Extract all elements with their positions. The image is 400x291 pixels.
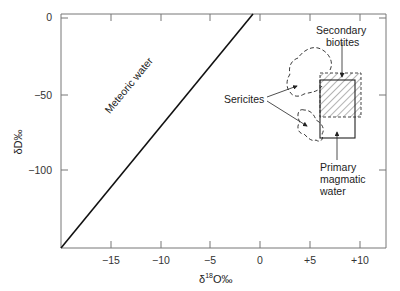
y-tick-label: −50 xyxy=(12,89,52,101)
sericites-label: Sericites xyxy=(224,93,264,105)
x-tick-label: 0 xyxy=(257,254,263,266)
x-tick-label: +10 xyxy=(351,254,369,266)
x-tick-label: +5 xyxy=(304,254,316,266)
x-tick-label: −10 xyxy=(152,254,170,266)
secondary-biotites-label: biotites xyxy=(326,36,359,48)
x-ticks xyxy=(111,14,360,248)
y-tick-label: −100 xyxy=(12,164,52,176)
y-axis-label: δD‰ xyxy=(12,124,24,160)
primary-magmatic-water-label: magmatic xyxy=(320,173,366,185)
isotope-chart: 0 −50 −100 −15 −10 −5 0 +5 +10 δ18O‰ δD‰… xyxy=(0,0,400,291)
y-tick-label: 0 xyxy=(12,11,52,23)
primary-magmatic-water-label: water xyxy=(320,185,346,197)
primary-magmatic-water-label: Primary xyxy=(320,161,356,173)
meteoric-water-line xyxy=(61,14,253,248)
x-tick-label: −15 xyxy=(102,254,120,266)
secondary-biotites-label: Secondary xyxy=(316,24,366,36)
x-tick-label: −5 xyxy=(204,254,216,266)
x-axis-label: δ18O‰ xyxy=(199,270,232,285)
